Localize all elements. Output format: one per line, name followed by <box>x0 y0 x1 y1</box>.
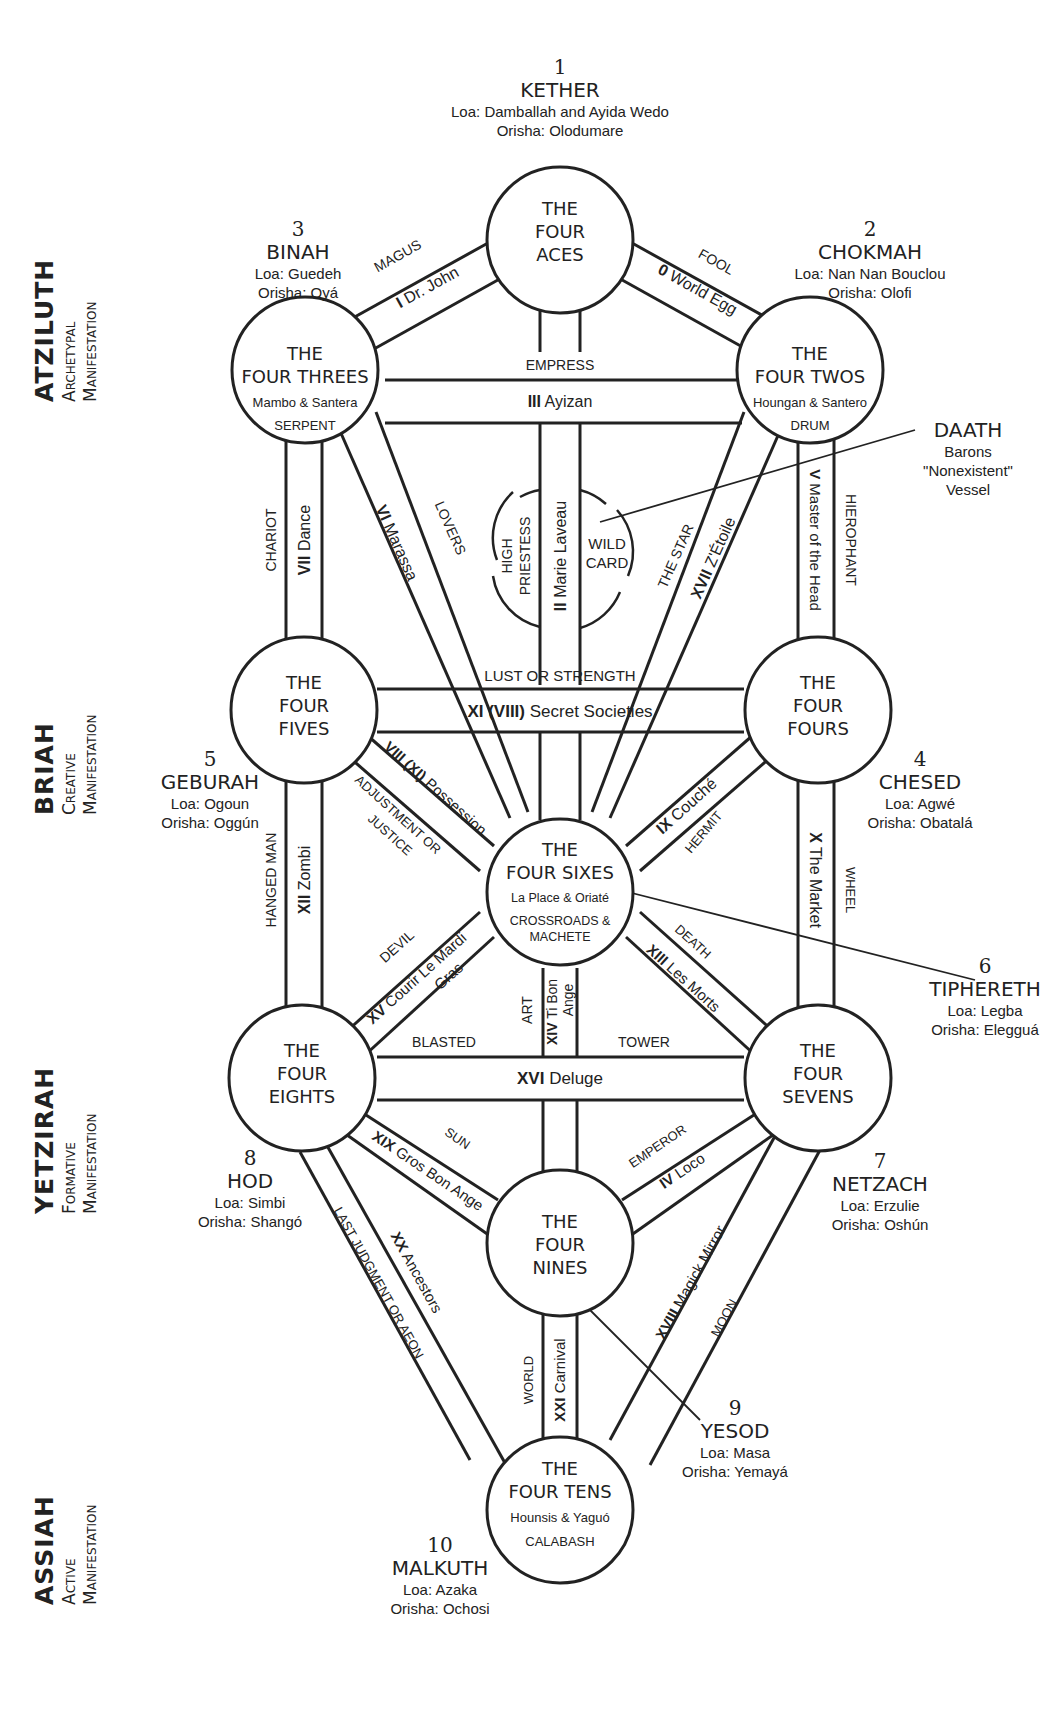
world-assiah: ASSIAH Active Manifestation <box>30 1495 101 1605</box>
aces-l1: THE <box>541 198 578 219</box>
sephira-loa: Loa: Legba <box>920 1001 1044 1020</box>
sephira-loa: Loa: Agwé <box>850 794 990 813</box>
path-empress-trump: EMPRESS <box>526 357 594 373</box>
sephira-loa: Loa: Nan Nan Bouclou <box>760 264 980 283</box>
world-sub1: Formative <box>59 1066 80 1213</box>
world-name: ASSIAH <box>30 1495 59 1605</box>
threes-l2: FOUR THREES <box>241 366 368 387</box>
sephira-kether: 1 KETHER Loa: Damballah and Ayida Wedo O… <box>400 56 720 140</box>
sephira-number: 10 <box>380 1534 500 1556</box>
sixes-l2: FOUR SIXES <box>506 862 614 883</box>
sephira-name: YESOD <box>670 1419 800 1443</box>
sephira-yesod: 9 YESOD Loa: Masa Orisha: Yemayá <box>670 1397 800 1481</box>
path-magus-name: I Dr. John <box>393 263 461 311</box>
twos-l1: THE <box>791 343 828 364</box>
sephira-name: GEBURAH <box>140 770 280 794</box>
tens-symbol: CALABASH <box>525 1534 594 1549</box>
nines-l1: THE <box>541 1211 578 1232</box>
nines-l2: FOUR <box>535 1234 585 1255</box>
daath-line1: Barons <box>918 442 1018 461</box>
path-chariot-trump: CHARIOT <box>263 508 279 571</box>
path-fool-trump: FOOL <box>696 245 737 278</box>
sephira-number: 1 <box>400 56 720 78</box>
sephira-loa: Loa: Damballah and Ayida Wedo <box>400 102 720 121</box>
world-sub2: Manifestation <box>80 1066 101 1213</box>
path-priestess-t1: HIGH <box>499 539 515 574</box>
world-briah: BRIAH Creative Manifestation <box>30 715 101 815</box>
path-hierophant-name: V Master of the Head <box>807 469 824 611</box>
daath-line2: "Nonexistent" <box>918 461 1018 480</box>
path-lust-name: XI (VIII) Secret Societies <box>467 702 652 721</box>
sephira-loa: Loa: Simbi <box>190 1193 310 1212</box>
path-world-name: XXI Carnival <box>551 1338 568 1421</box>
tens-l2: FOUR TENS <box>508 1481 611 1502</box>
sevens-l1: THE <box>799 1040 836 1061</box>
sephira-loa: Loa: Ogoun <box>140 794 280 813</box>
path-tower-trump1: BLASTED <box>412 1034 476 1050</box>
world-sub1: Creative <box>59 715 80 815</box>
world-sub2: Manifestation <box>80 1495 101 1605</box>
sevens-l3: SEVENS <box>782 1086 853 1107</box>
world-sub1: Active <box>59 1495 80 1605</box>
sephira-number: 6 <box>920 955 1044 977</box>
sephira-name: MALKUTH <box>380 1556 500 1580</box>
path-magus-trump: MAGUS <box>371 236 424 275</box>
threes-symbol: SERPENT <box>274 418 335 433</box>
fives-l2: FOUR <box>279 695 329 716</box>
sephira-malkuth: 10 MALKUTH Loa: Azaka Orisha: Ochosi <box>380 1534 500 1618</box>
sephira-name: TIPHERETH <box>920 977 1044 1001</box>
path-art-name2: Ange <box>560 983 576 1016</box>
sephira-number: 7 <box>815 1150 945 1172</box>
sixes-sub: La Place & Oriaté <box>511 891 609 905</box>
path-devil-trump: DEVIL <box>376 927 417 966</box>
nines-l3: NINES <box>532 1257 587 1278</box>
path-lovers-trump: LOVERS <box>432 499 470 557</box>
path-world-trump: WORLD <box>521 1356 536 1404</box>
path-priestess-t2: PRIESTESS <box>517 517 533 596</box>
sephira-number: 2 <box>760 218 980 240</box>
sephira-name: CHOKMAH <box>760 240 980 264</box>
daath-name: DAATH <box>918 418 1018 442</box>
twos-l2: FOUR TWOS <box>755 366 865 387</box>
wild-card-l2: CARD <box>586 554 629 571</box>
world-name: ATZILUTH <box>30 258 59 401</box>
sephira-orisha: Orisha: Oggún <box>140 813 280 832</box>
eights-l2: FOUR <box>277 1063 327 1084</box>
sephira-number: 4 <box>850 748 990 770</box>
fives-l1: THE <box>285 672 322 693</box>
sephira-netzach: 7 NETZACH Loa: Erzulie Orisha: Oshún <box>815 1150 945 1234</box>
path-chariot-name: VII Dance <box>296 505 313 575</box>
aces-l3: ACES <box>536 244 583 265</box>
fours-l3: FOURS <box>787 718 849 739</box>
path-art-trump: ART <box>519 996 535 1024</box>
sephira-chesed: 4 CHESED Loa: Agwé Orisha: Obatalá <box>850 748 990 832</box>
sephira-orisha: Orisha: Yemayá <box>670 1462 800 1481</box>
path-empress-name: III Ayizan <box>528 393 593 410</box>
aces-l2: FOUR <box>535 221 585 242</box>
sevens-l2: FOUR <box>793 1063 843 1084</box>
sixes-symbol2: MACHETE <box>529 930 590 944</box>
eights-l3: EIGHTS <box>269 1086 336 1107</box>
sephira-name: BINAH <box>228 240 368 264</box>
world-sub2: Manifestation <box>80 715 101 815</box>
tens-sub: Hounsis & Yaguó <box>510 1510 609 1525</box>
fours-l1: THE <box>799 672 836 693</box>
world-name: YETZIRAH <box>30 1066 59 1213</box>
tens-l1: THE <box>541 1458 578 1479</box>
path-hanged-name: XII Zombi <box>296 846 313 914</box>
sephira-loa: Loa: Masa <box>670 1443 800 1462</box>
path-sun-trump: SUN <box>442 1124 473 1152</box>
threes-l1: THE <box>286 343 323 364</box>
path-art-name: XIV Ti Bon <box>544 979 560 1045</box>
path-hanged-trump: HANGED MAN <box>263 833 279 928</box>
path-moon-trump: MOON <box>708 1296 741 1339</box>
fives-l3: FIVES <box>279 718 330 739</box>
sephira-chokmah: 2 CHOKMAH Loa: Nan Nan Bouclou Orisha: O… <box>760 218 980 302</box>
sephira-number: 5 <box>140 748 280 770</box>
sephira-geburah: 5 GEBURAH Loa: Ogoun Orisha: Oggún <box>140 748 280 832</box>
sephira-loa: Loa: Azaka <box>380 1580 500 1599</box>
sephira-orisha: Orisha: Shangó <box>190 1212 310 1231</box>
sephira-orisha: Orisha: Olodumare <box>400 121 720 140</box>
wild-card-l1: WILD <box>588 535 626 552</box>
sephira-hod: 8 HOD Loa: Simbi Orisha: Shangó <box>190 1147 310 1231</box>
